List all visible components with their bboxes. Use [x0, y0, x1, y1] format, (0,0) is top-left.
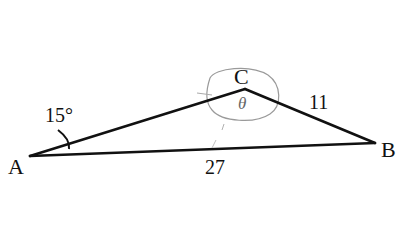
vertex-label-C: C	[234, 66, 249, 88]
side-CB-label: 11	[309, 92, 328, 112]
side-AB-label: 27	[205, 157, 225, 177]
vertex-label-B: B	[381, 139, 396, 161]
pencil-stroke	[197, 93, 212, 95]
vertex-label-A: A	[8, 156, 24, 178]
angle-A-label: 15°	[45, 105, 73, 125]
angle-C-theta-label: θ	[238, 95, 246, 112]
pencil-mark	[212, 140, 216, 148]
pencil-mark	[222, 124, 224, 130]
side-AB	[30, 143, 375, 156]
